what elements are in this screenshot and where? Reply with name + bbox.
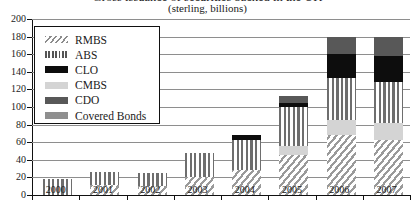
y-axis-tick-label: 60 bbox=[0, 137, 26, 147]
x-axis-tick bbox=[221, 195, 222, 200]
x-axis-label-2000: 2000 bbox=[33, 184, 79, 195]
y-axis-tick bbox=[27, 177, 32, 178]
gridline bbox=[32, 19, 410, 20]
y-axis-tick-label: 180 bbox=[0, 32, 26, 42]
y-axis-tick-label: 100 bbox=[0, 102, 26, 112]
x-axis-tick bbox=[32, 195, 33, 200]
abs-swatch-icon bbox=[45, 51, 68, 58]
legend-item-covered-bonds: Covered Bonds bbox=[45, 108, 159, 123]
x-axis-label-2004: 2004 bbox=[222, 184, 268, 195]
y-axis-tick bbox=[27, 142, 32, 143]
legend-label: ABS bbox=[75, 49, 97, 61]
legend-item-abs: ABS bbox=[45, 47, 159, 62]
x-axis-tick bbox=[316, 195, 317, 200]
bar-segment-abs-2007 bbox=[374, 82, 403, 122]
bar-segment-clo-2006 bbox=[327, 54, 356, 78]
y-axis-tick-label: 0 bbox=[0, 190, 26, 200]
x-axis-label-2005: 2005 bbox=[269, 184, 315, 195]
chart-subtitle: (sterling, billions) bbox=[0, 2, 415, 15]
y-axis-tick bbox=[27, 160, 32, 161]
bar-segment-clo-2004 bbox=[232, 135, 261, 140]
x-axis-tick bbox=[174, 195, 175, 200]
cmbs-swatch-icon bbox=[45, 82, 68, 89]
y-axis-tick-label: 120 bbox=[0, 84, 26, 94]
x-axis-label-2001: 2001 bbox=[80, 184, 126, 195]
y-axis-tick bbox=[27, 54, 32, 55]
chart-legend: RMBSABSCLOCMBSCDOCovered Bonds bbox=[34, 26, 160, 124]
x-axis-tick bbox=[410, 195, 411, 200]
y-axis-tick bbox=[27, 37, 32, 38]
y-axis-tick bbox=[27, 89, 32, 90]
bar-segment-cdo-2007 bbox=[374, 37, 403, 56]
x-axis-tick bbox=[363, 195, 364, 200]
y-axis-tick-label: 160 bbox=[0, 49, 26, 59]
legend-label: RMBS bbox=[75, 34, 107, 46]
legend-item-rmbs: RMBS bbox=[45, 32, 159, 47]
y-axis-tick bbox=[27, 19, 32, 20]
chart-container: Gross issuance of securities backed in t… bbox=[0, 0, 415, 223]
x-axis-label-2006: 2006 bbox=[316, 184, 362, 195]
bar-segment-clo-2005 bbox=[279, 103, 308, 107]
y-axis-tick-label: 200 bbox=[0, 14, 26, 24]
y-axis-tick bbox=[27, 125, 32, 126]
x-axis-label-2007: 2007 bbox=[363, 184, 409, 195]
legend-label: CDO bbox=[75, 94, 99, 106]
bar-segment-abs-2004 bbox=[232, 140, 261, 170]
y-axis-tick-label: 80 bbox=[0, 120, 26, 130]
y-axis-tick bbox=[27, 107, 32, 108]
legend-label: CLO bbox=[75, 64, 98, 76]
y-axis-tick bbox=[27, 72, 32, 73]
y-axis-tick-label: 20 bbox=[0, 172, 26, 182]
bar-segment-cdo-2005 bbox=[279, 96, 308, 103]
legend-item-cdo: CDO bbox=[45, 93, 159, 108]
legend-item-clo: CLO bbox=[45, 62, 159, 77]
bar-segment-clo-2007 bbox=[374, 56, 403, 82]
x-axis-label-2002: 2002 bbox=[127, 184, 173, 195]
bar-segment-cdo-2006 bbox=[327, 37, 356, 55]
bar-segment-cmbs-2006 bbox=[327, 120, 356, 135]
bar-segment-cmbs-2007 bbox=[374, 123, 403, 141]
x-axis-tick bbox=[268, 195, 269, 200]
legend-label: CMBS bbox=[75, 79, 107, 91]
x-axis-tick bbox=[127, 195, 128, 200]
bar-segment-abs-2005 bbox=[279, 107, 308, 146]
y-axis-tick-label: 140 bbox=[0, 67, 26, 77]
legend-label: Covered Bonds bbox=[75, 110, 146, 122]
legend-item-cmbs: CMBS bbox=[45, 78, 159, 93]
covered-bonds-swatch-icon bbox=[45, 112, 68, 119]
bar-segment-cmbs-2005 bbox=[279, 146, 308, 155]
x-axis-tick bbox=[79, 195, 80, 200]
bar-segment-abs-2003 bbox=[185, 153, 214, 178]
bar-segment-abs-2006 bbox=[327, 78, 356, 120]
x-axis-label-2003: 2003 bbox=[174, 184, 220, 195]
clo-swatch-icon bbox=[45, 66, 68, 73]
cdo-swatch-icon bbox=[45, 97, 68, 104]
rmbs-swatch-icon bbox=[45, 36, 68, 43]
y-axis-tick-label: 40 bbox=[0, 155, 26, 165]
